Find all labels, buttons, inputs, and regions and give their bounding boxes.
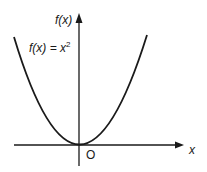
curve-label-exponent: 2 xyxy=(66,40,70,49)
y-axis-arrow-icon xyxy=(76,13,83,23)
graph-canvas xyxy=(0,0,207,172)
curve-label: f(x) = x2 xyxy=(29,41,70,54)
y-axis-label: f(x) xyxy=(55,14,72,26)
x-axis-label: x xyxy=(189,144,195,156)
origin-label: O xyxy=(86,149,95,161)
x-axis-arrow-icon xyxy=(175,142,184,149)
curve-label-lhs: f(x) = x xyxy=(29,41,66,55)
